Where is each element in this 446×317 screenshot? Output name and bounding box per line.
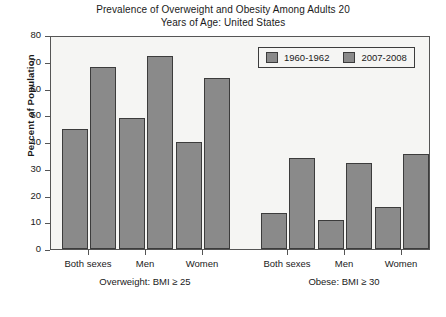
legend-label-2007: 2007-2008 (361, 52, 406, 63)
x-tick-mark-0 (88, 250, 89, 255)
bar-2007-2008-men-4 (346, 163, 372, 249)
bar-2007-2008-both-sexes-0 (90, 67, 116, 249)
x-category-label-5: Women (356, 258, 446, 269)
x-group-label-0: Overweight: BMI ≥ 25 (65, 276, 225, 287)
legend-swatch-2007-icon (343, 52, 355, 63)
plot-area (50, 36, 430, 250)
bar-2007-2008-both-sexes-3 (289, 158, 315, 249)
bar-1960-1962-women-5 (375, 207, 401, 249)
x-tick-mark-1 (145, 250, 146, 255)
y-tick-mark (45, 250, 50, 251)
y-tick-label: 0 (1, 243, 41, 254)
x-tick-mark-5 (401, 250, 402, 255)
bar-2007-2008-women-2 (204, 78, 230, 249)
x-tick-mark-3 (287, 250, 288, 255)
y-tick-label: 70 (1, 56, 41, 67)
chart-title-line-1: Prevalence of Overweight and Obesity Amo… (0, 4, 446, 17)
x-tick-mark-2 (202, 250, 203, 255)
y-tick-label: 60 (1, 83, 41, 94)
x-tick-mark-4 (344, 250, 345, 255)
y-tick-label: 10 (1, 216, 41, 227)
x-group-label-1: Obese: BMI ≥ 30 (264, 276, 424, 287)
legend-swatch-1960-icon (266, 52, 278, 63)
x-category-label-2: Women (157, 258, 247, 269)
bar-1960-1962-men-1 (119, 118, 145, 249)
chart-title-line-2: Years of Age: United States (0, 17, 446, 30)
y-tick-label: 40 (1, 136, 41, 147)
legend-item-1960: 1960-1962 (266, 52, 329, 63)
bar-1960-1962-both-sexes-0 (62, 129, 88, 249)
legend-item-2007: 2007-2008 (343, 52, 406, 63)
bar-1960-1962-women-2 (176, 142, 202, 249)
chart-title: Prevalence of Overweight and Obesity Amo… (0, 4, 446, 29)
bar-chart: Prevalence of Overweight and Obesity Amo… (0, 0, 446, 317)
y-tick-label: 80 (1, 29, 41, 40)
bar-2007-2008-men-1 (147, 56, 173, 249)
legend-label-1960: 1960-1962 (284, 52, 329, 63)
bar-2007-2008-women-5 (403, 154, 429, 249)
y-tick-label: 30 (1, 163, 41, 174)
y-tick-label: 50 (1, 109, 41, 120)
chart-legend: 1960-1962 2007-2008 (258, 47, 415, 68)
bar-1960-1962-men-4 (318, 220, 344, 249)
bar-1960-1962-both-sexes-3 (261, 213, 287, 249)
y-tick-label: 20 (1, 190, 41, 201)
